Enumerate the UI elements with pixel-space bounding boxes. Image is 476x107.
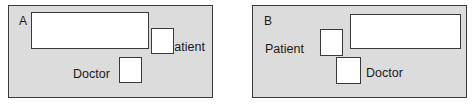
panel-b-patient-label: Patient bbox=[265, 43, 304, 56]
panel-a-doctor-box bbox=[119, 57, 142, 83]
panel-b-large-rectangle bbox=[350, 14, 461, 49]
panel-b-doctor-label: Doctor bbox=[366, 67, 403, 80]
panel-a-letter: A bbox=[19, 15, 27, 27]
panel-b: B Patient Doctor bbox=[252, 5, 467, 98]
panel-b-letter: B bbox=[264, 15, 272, 27]
panel-a: A Patient Doctor bbox=[8, 5, 213, 98]
panel-a-doctor-label: Doctor bbox=[73, 68, 110, 81]
two-panel-figure: A Patient Doctor B Patient Doctor bbox=[0, 0, 476, 107]
panel-a-large-rectangle bbox=[31, 12, 149, 49]
panel-b-patient-box bbox=[320, 29, 343, 56]
panel-a-patient-box bbox=[151, 28, 174, 54]
panel-b-doctor-box bbox=[336, 57, 361, 84]
